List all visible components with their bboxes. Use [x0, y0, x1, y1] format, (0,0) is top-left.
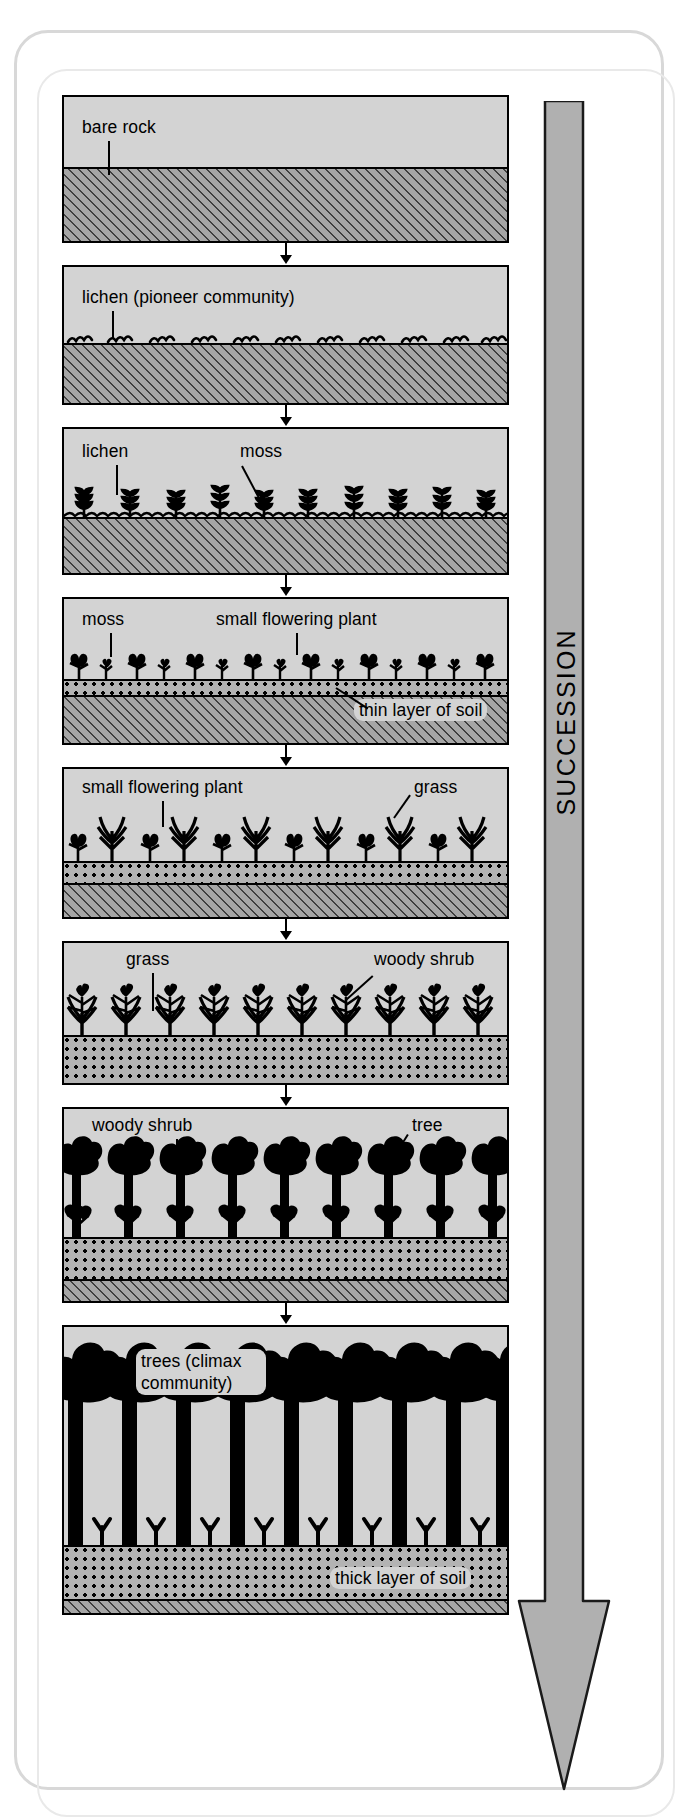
label-small-flowering-plant: small flowering plant	[216, 609, 377, 629]
succession-arrow-group: SUCCESSION	[512, 101, 622, 1791]
leader-line-small-flowering-plant	[296, 633, 298, 655]
moss-and-lichen-vegetation	[64, 479, 507, 519]
shrub-and-grass-vegetation	[64, 973, 507, 1035]
flow-arrow-6	[62, 1085, 509, 1107]
flow-arrow-3	[62, 575, 509, 597]
leader-line-lichen	[112, 311, 114, 339]
flowering-plant-vegetation	[64, 645, 507, 681]
arrow-head-icon	[280, 255, 292, 264]
bare-rock-layer	[64, 1279, 507, 1303]
label-small-flowering-plant: small flowering plant	[82, 777, 243, 797]
bare-rock-layer	[64, 517, 507, 575]
bare-rock-layer	[64, 167, 507, 243]
bare-rock-layer	[64, 343, 507, 405]
stage-panel-woody-shrub-and-tree: woody shrub tree	[62, 1107, 509, 1303]
label-grass: grass	[126, 949, 169, 969]
succession-arrow-icon	[512, 101, 622, 1791]
soil-layer	[64, 1237, 507, 1281]
leader-line-small-flowering-plant	[162, 801, 164, 827]
label-woody-shrub: woody shrub	[92, 1115, 192, 1135]
stage-panel-flowering-plants-and-grass: small flowering plant grass	[62, 767, 509, 919]
stage-panel-lichen-and-moss: lichen moss	[62, 427, 509, 575]
stage-panel-climax-community: trees (climax community) thick layer of …	[62, 1325, 509, 1615]
label-lichen-pioneer-community: lichen (pioneer community)	[82, 287, 295, 307]
flow-arrow-2	[62, 405, 509, 427]
arrow-head-icon	[280, 931, 292, 940]
arrow-head-icon	[280, 757, 292, 766]
bare-rock-layer	[64, 883, 507, 919]
stage-panel-grass-and-woody-shrub: grass woody shrub	[62, 941, 509, 1085]
bare-rock-layer	[64, 1599, 507, 1615]
leader-line-lichen	[116, 465, 118, 495]
arrow-head-icon	[280, 1315, 292, 1324]
label-lichen: lichen	[82, 441, 128, 461]
flow-arrow-1	[62, 243, 509, 265]
leader-arrow-moss-icon	[257, 497, 265, 505]
label-moss: moss	[82, 609, 124, 629]
label-woody-shrub: woody shrub	[374, 949, 474, 969]
label-tree: tree	[412, 1115, 443, 1135]
stage-panel-bare-rock: bare rock	[62, 95, 509, 243]
leader-line-moss	[110, 633, 112, 657]
label-grass: grass	[414, 777, 457, 797]
leader-line-woody-shrub	[176, 1139, 178, 1209]
label-trees-climax-community: trees (climax community)	[136, 1349, 266, 1395]
label-moss: moss	[240, 441, 282, 461]
soil-layer	[64, 1035, 507, 1085]
arrow-head-icon	[280, 587, 292, 596]
climax-forest-vegetation	[64, 1329, 507, 1547]
leader-line-grass	[152, 973, 154, 1011]
label-thick-layer-of-soil: thick layer of soil	[330, 1567, 471, 1589]
leader-line-bare-rock	[108, 141, 110, 175]
grass-and-flowers-vegetation	[64, 807, 507, 862]
lichen-crust-vegetation	[64, 323, 507, 345]
flow-arrow-7	[62, 1303, 509, 1325]
succession-arrow-label: SUCCESSION	[552, 696, 581, 816]
diagram-card: bare rock	[14, 30, 664, 1790]
arrow-head-icon	[280, 417, 292, 426]
label-bare-rock: bare rock	[82, 117, 156, 137]
young-trees-and-shrubs-vegetation	[64, 1129, 507, 1239]
flow-arrow-4	[62, 745, 509, 767]
stage-panel-moss-and-flowering-plant: moss small flowering plant thin layer of…	[62, 597, 509, 745]
flow-arrow-5	[62, 919, 509, 941]
soil-layer	[64, 861, 507, 885]
label-thin-layer-of-soil: thin layer of soil	[354, 699, 487, 721]
succession-panel-stack: bare rock	[62, 95, 509, 1615]
stage-panel-lichen-pioneer: lichen (pioneer community)	[62, 265, 509, 405]
arrow-head-icon	[280, 1097, 292, 1106]
